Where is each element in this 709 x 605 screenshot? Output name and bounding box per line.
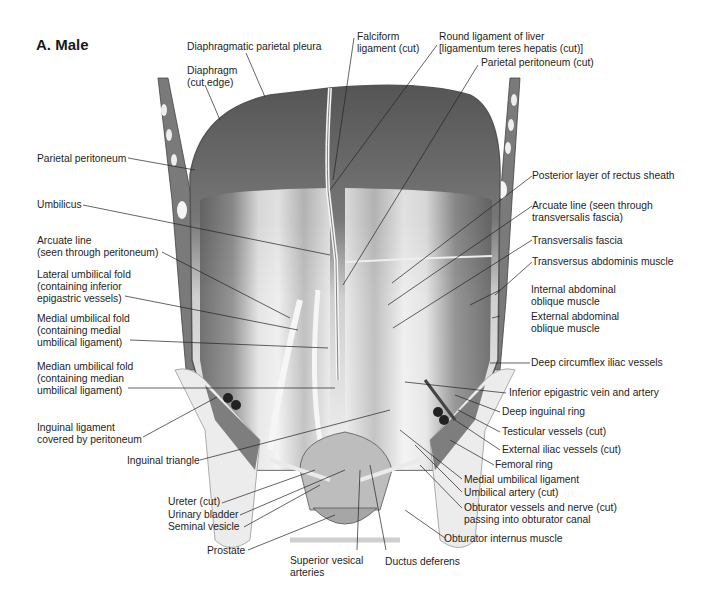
label-median-umbilical-fold: Median umbilical fold (containing median… — [37, 361, 133, 397]
label-obturator-vessels: Obturator vessels and nerve (cut) passin… — [464, 502, 617, 526]
label-external-iliac-vessels: External iliac vessels (cut) — [502, 444, 621, 456]
label-inferior-epigastric: Inferior epigastric vein and artery — [509, 387, 659, 399]
label-inguinal-triangle: Inguinal triangle — [127, 455, 200, 467]
label-internal-oblique: Internal abdominal oblique muscle — [531, 284, 616, 308]
label-prostate: Prostate — [207, 545, 245, 557]
label-seminal-vesicle: Seminal vesicle — [168, 521, 240, 533]
label-obturator-internus: Obturator internus muscle — [444, 533, 562, 545]
label-falciform-ligament: Falciform ligament (cut) — [357, 31, 419, 55]
label-diaphragmatic-parietal-pleura: Diaphragmatic parietal pleura — [187, 41, 322, 53]
label-ductus-deferens: Ductus deferens — [385, 556, 460, 568]
label-parietal-peritoneum: Parietal peritoneum — [37, 153, 126, 165]
label-umbilical-artery: Umbilical artery (cut) — [464, 487, 558, 499]
label-umbilicus: Umbilicus — [37, 199, 82, 211]
label-testicular-vessels: Testicular vessels (cut) — [502, 426, 606, 438]
label-deep-circumflex-iliac: Deep circumflex iliac vessels — [531, 357, 663, 369]
label-femoral-ring: Femoral ring — [495, 459, 553, 471]
label-medial-umbilical-ligament: Medial umbilical ligament — [464, 474, 579, 486]
label-transversus-abdominis: Transversus abdominis muscle — [532, 256, 674, 268]
figure-title: A. Male — [36, 36, 89, 53]
label-superior-vesical-arteries: Superior vesical arteries — [290, 555, 363, 579]
anterior-abdominal-wall — [190, 85, 500, 470]
label-arcuate-line-peritoneum: Arcuate line (seen through peritoneum) — [37, 235, 158, 259]
label-lateral-umbilical-fold: Lateral umbilical fold (containing infer… — [37, 269, 131, 305]
label-arcuate-line-transversalis: Arcuate line (seen through transversalis… — [532, 200, 653, 224]
label-inguinal-ligament: Inguinal ligament covered by peritoneum — [37, 422, 142, 446]
label-ureter-cut: Ureter (cut) — [168, 496, 220, 508]
label-external-oblique: External abdominal oblique muscle — [531, 311, 619, 335]
label-urinary-bladder: Urinary bladder — [168, 509, 238, 521]
label-medial-umbilical-fold: Medial umbilical fold (containing medial… — [37, 313, 130, 349]
label-transversalis-fascia: Transversalis fascia — [532, 235, 623, 247]
label-diaphragm-cut-edge: Diaphragm (cut edge) — [187, 65, 237, 89]
label-round-ligament-of-liver: Round ligament of liver [ligamentum tere… — [439, 31, 583, 55]
label-posterior-rectus-sheath: Posterior layer of rectus sheath — [532, 170, 675, 182]
label-deep-inguinal-ring: Deep inguinal ring — [502, 406, 585, 418]
label-parietal-peritoneum-cut: Parietal peritoneum (cut) — [481, 57, 594, 69]
